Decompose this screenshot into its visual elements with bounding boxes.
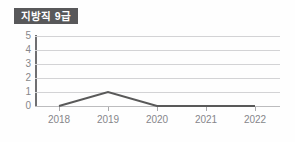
x-axis-tick-labels: 2018 2019 2020 2021 2022 — [35, 114, 280, 128]
chart-title-badge: 지방직 9급 — [14, 8, 78, 24]
x-tick-mark — [108, 107, 109, 111]
x-tick-mark — [59, 107, 60, 111]
y-tick-label: 3 — [9, 59, 31, 69]
x-tick-mark — [255, 107, 256, 111]
x-tick-label: 2022 — [233, 114, 277, 126]
y-tick-label: 5 — [9, 31, 31, 41]
x-tick-label: 2019 — [86, 114, 130, 126]
line-series-path — [59, 92, 255, 106]
line-series-svg — [35, 36, 280, 106]
x-tick-label: 2018 — [37, 114, 81, 126]
x-tick-label: 2021 — [184, 114, 228, 126]
chart-figure: 지방직 9급 5 4 3 2 1 0 2018 2019 2020 2021 2… — [0, 0, 295, 142]
x-tick-mark — [157, 107, 158, 111]
y-axis-tick-labels: 5 4 3 2 1 0 — [4, 36, 31, 106]
y-tick-label: 1 — [9, 87, 31, 97]
y-tick-label: 4 — [9, 45, 31, 55]
y-tick-label: 2 — [9, 73, 31, 83]
plot-area — [35, 36, 280, 106]
x-tick-label: 2020 — [135, 114, 179, 126]
x-tick-mark — [206, 107, 207, 111]
y-tick-label: 0 — [9, 101, 31, 111]
